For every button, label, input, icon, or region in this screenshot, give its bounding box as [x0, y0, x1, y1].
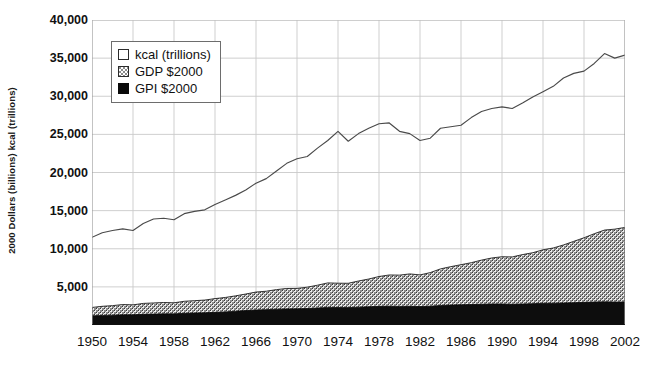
x-tick-label: 1998 [569, 334, 599, 349]
x-tick-label: 1986 [446, 334, 476, 349]
x-tick-label: 1962 [200, 334, 230, 349]
x-tick-label: 1958 [159, 334, 189, 349]
legend-item-kcal: kcal (trillions) [118, 46, 211, 63]
x-tick-label: 1974 [323, 334, 353, 349]
legend-swatch-gpi-icon [118, 83, 129, 94]
y-tick-label: 5,000 [26, 280, 88, 294]
y-tick-label: 40,000 [26, 13, 88, 27]
x-tick-label: 1970 [282, 334, 312, 349]
legend-label-kcal: kcal (trillions) [135, 48, 211, 61]
chart-container: 2000 Dollars (billions) kcal (trillions)… [0, 0, 645, 368]
y-tick-label: 10,000 [26, 242, 88, 256]
legend-label-gdp: GDP $2000 [135, 65, 203, 78]
x-tick-label: 1978 [364, 334, 394, 349]
x-tick-label: 1990 [487, 334, 517, 349]
x-tick-label: 1954 [118, 334, 148, 349]
y-tick-label: 15,000 [26, 204, 88, 218]
x-axis-tick-labels: 1950195419581962196619701974197819821986… [0, 334, 645, 360]
legend-item-gdp: GDP $2000 [118, 63, 211, 80]
y-axis-tick-labels: 40,00035,00030,00025,00020,00015,00010,0… [22, 0, 88, 368]
y-axis-title: 2000 Dollars (billions) kcal (trillions) [0, 0, 22, 340]
y-tick-label: 30,000 [26, 89, 88, 103]
x-tick-label: 1982 [405, 334, 435, 349]
legend-item-gpi: GPI $2000 [118, 80, 211, 97]
x-tick-label: 1994 [528, 334, 558, 349]
chart-legend: kcal (trillions) GDP $2000 GPI $2000 [111, 41, 221, 103]
x-tick-label: 2002 [610, 334, 640, 349]
legend-swatch-gdp-icon [118, 66, 129, 77]
y-tick-label: 20,000 [26, 166, 88, 180]
legend-swatch-kcal-icon [118, 49, 129, 60]
y-axis-title-text: 2000 Dollars (billions) kcal (trillions) [6, 87, 17, 254]
y-tick-label: 25,000 [26, 127, 88, 141]
legend-label-gpi: GPI $2000 [135, 82, 197, 95]
x-tick-label: 1950 [77, 334, 107, 349]
x-tick-label: 1966 [241, 334, 271, 349]
y-tick-label: 35,000 [26, 51, 88, 65]
